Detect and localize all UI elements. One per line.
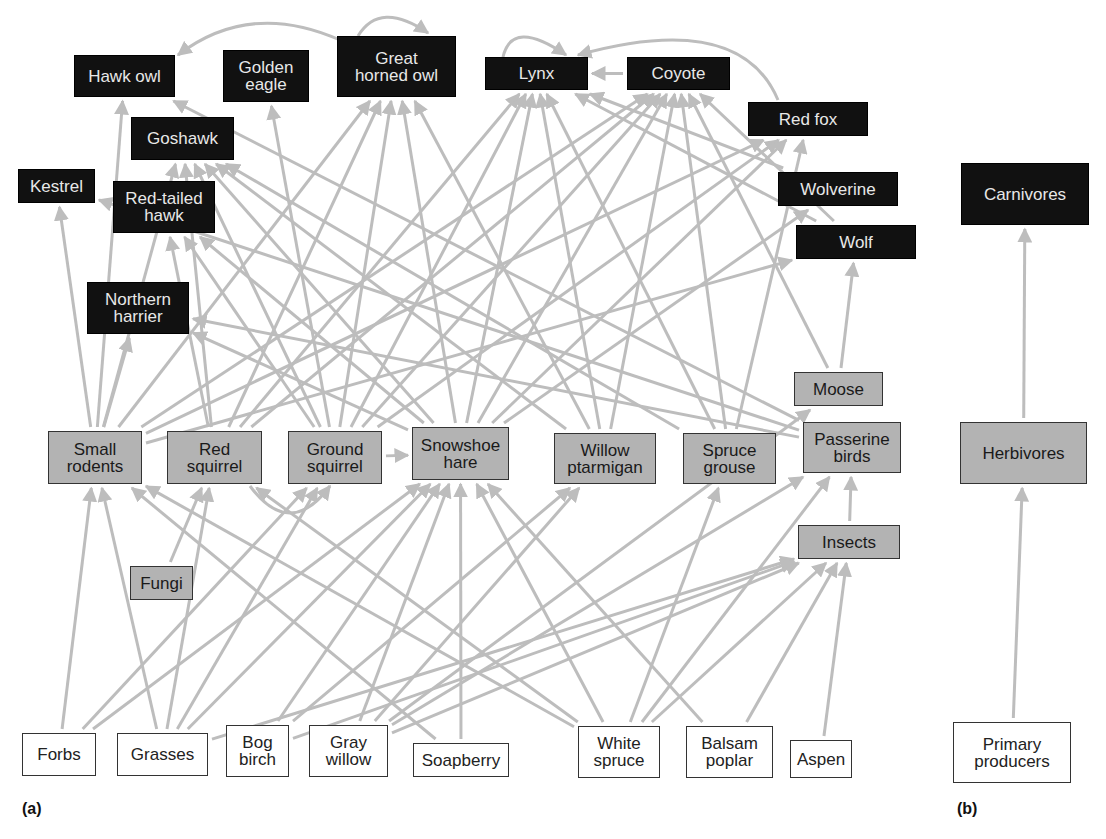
node-golden-eagle: Golden eagle (223, 50, 309, 102)
panel-label-b: (b) (957, 800, 977, 818)
node-fungi: Fungi (130, 566, 193, 600)
node-gray-willow: Gray willow (309, 725, 388, 777)
edge-ground-squirrel-to-coyote (362, 94, 660, 427)
node-goshawk: Goshawk (131, 117, 234, 160)
edge-spruce-grouse-to-goshawk (226, 164, 679, 429)
edge-grasses-to-small-rodents (102, 488, 157, 729)
node-red-tailed-hawk: Red-tailed hawk (113, 181, 215, 233)
curved-edge-lynx-to-lynx (503, 37, 566, 57)
edge-insects-to-passerine-birds (850, 477, 851, 521)
node-balsam-poplar: Balsam poplar (686, 726, 773, 778)
node-small-rodents: Small rodents (48, 431, 142, 484)
node-coyote: Coyote (627, 57, 730, 90)
edge-red-squirrel-to-coyote (251, 94, 653, 427)
node-northern-harrier: Northern harrier (87, 282, 189, 334)
node-ground-squirrel: Ground squirrel (288, 431, 382, 484)
edge-moose-to-wolf (841, 263, 854, 368)
edge-forbs-to-ground-squirrel (83, 488, 307, 729)
edge-white-spruce-to-snowshoe-hare (477, 484, 603, 722)
node-grasses: Grasses (117, 733, 208, 776)
node-wolf: Wolf (796, 225, 916, 259)
node-wolverine: Wolverine (778, 172, 898, 206)
node-red-fox: Red fox (748, 102, 868, 136)
edge-passerine-birds-to-hawk-owl (173, 101, 799, 420)
node-herbivores: Herbivores (960, 422, 1087, 484)
node-spruce-grouse: Spruce grouse (683, 433, 776, 484)
edge-small-rodents-to-kestrel (59, 207, 90, 427)
edge-balsam-poplar-to-snowshoe-hare (488, 484, 702, 722)
node-kestrel: Kestrel (18, 169, 95, 203)
edge-forbs-to-small-rodents (62, 488, 91, 729)
node-forbs: Forbs (22, 733, 96, 776)
edge-primary-producers-to-herbivores (1013, 488, 1022, 718)
node-bog-birch: Bog birch (226, 725, 289, 777)
node-red-squirrel: Red squirrel (167, 431, 262, 484)
edge-herbivores-to-carnivores (1024, 229, 1025, 418)
node-passerine-birds: Passerine birds (803, 422, 901, 473)
edge-red-squirrel-to-great-horned-owl (229, 101, 381, 427)
node-lynx: Lynx (485, 57, 588, 90)
node-soapberry: Soapberry (413, 743, 509, 777)
node-white-spruce: White spruce (578, 726, 660, 778)
node-willow-ptarmigan: Willow ptarmigan (554, 433, 656, 484)
node-hawk-owl: Hawk owl (74, 55, 175, 97)
edge-aspen-to-insects (824, 563, 846, 736)
node-aspen: Aspen (790, 740, 852, 778)
edge-white-spruce-to-small-rodents (146, 486, 574, 727)
node-snowshoe-hare: Snowshoe hare (412, 427, 509, 480)
node-primary-producers: Primary producers (953, 722, 1071, 783)
node-moose: Moose (794, 372, 883, 406)
curved-edge-great-horned-owl-to-great-horned-owl (358, 17, 428, 36)
edge-gray-willow-to-passerine-birds (392, 477, 803, 725)
edge-ground-squirrel-to-snowshoe-hare (386, 455, 408, 456)
curved-edge-red-squirrel-to-ground-squirrel (250, 486, 330, 513)
edge-snowshoe-hare-to-goshawk (205, 164, 434, 423)
panel-label-a: (a) (22, 800, 42, 818)
edge-grasses-to-insects (212, 559, 794, 739)
edge-grasses-to-snowshoe-hare (188, 484, 431, 729)
node-great-horned-owl: Great horned owl (337, 36, 456, 97)
edge-balsam-poplar-to-insects (747, 563, 837, 722)
node-insects: Insects (798, 525, 900, 559)
node-carnivores: Carnivores (961, 163, 1089, 225)
